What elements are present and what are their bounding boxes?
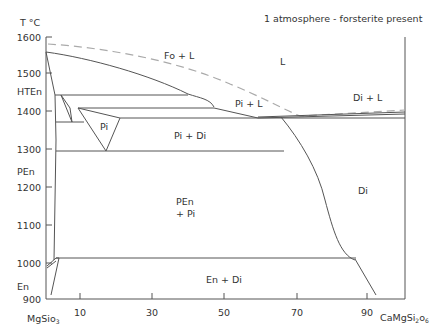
field-pi-l: Pi + L <box>235 98 263 109</box>
field-di-l: Di + L <box>353 92 383 103</box>
svg-text:1300: 1300 <box>17 144 41 155</box>
en-solidus-left <box>46 52 56 260</box>
phase-diagram-chart: 1 atmosphere - forsterite present T °C 1… <box>0 0 432 334</box>
svg-text:1500: 1500 <box>17 68 41 79</box>
field-pi-di: Pi + Di <box>174 130 206 141</box>
svg-text:1200: 1200 <box>17 182 41 193</box>
field-pen-line2: + Pi <box>176 208 195 219</box>
di-solvus <box>281 117 355 260</box>
svg-text:70: 70 <box>291 307 303 318</box>
field-pen-line1: PEn <box>176 196 194 207</box>
svg-text:1100: 1100 <box>17 220 41 231</box>
x-tick-labels: 10 30 50 70 90 <box>74 307 373 318</box>
field-l: L <box>280 56 286 67</box>
svg-text:900: 900 <box>23 294 41 305</box>
svg-text:1400: 1400 <box>17 106 41 117</box>
chart-title: 1 atmosphere - forsterite present <box>264 13 423 24</box>
field-en-di: En + Di <box>206 274 242 285</box>
svg-text:1600: 1600 <box>17 32 41 43</box>
label-pEn: PEn <box>17 166 35 177</box>
field-fo-l: Fo + L <box>164 50 195 61</box>
fo-liquidus-dashed <box>48 44 405 116</box>
x-label-left: MgSio3 <box>27 313 60 325</box>
label-en: En <box>17 281 29 292</box>
x-label-right: CaMgSi2o6 <box>380 312 429 324</box>
svg-text:10: 10 <box>74 307 86 318</box>
svg-text:30: 30 <box>146 307 158 318</box>
label-htEn: HTEn <box>17 86 42 97</box>
svg-text:90: 90 <box>361 307 373 318</box>
svg-text:1000: 1000 <box>17 258 41 269</box>
field-di: Di <box>358 185 368 196</box>
svg-text:50: 50 <box>218 307 230 318</box>
field-pi: Pi <box>100 121 108 132</box>
axes <box>46 37 405 299</box>
y-axis-unit: T °C <box>19 17 41 28</box>
